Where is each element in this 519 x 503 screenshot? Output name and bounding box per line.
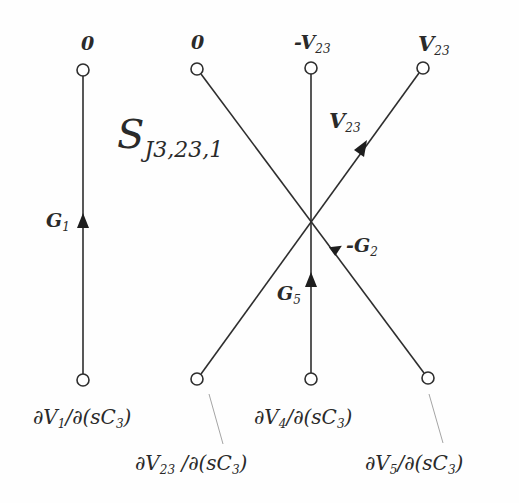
label-dv1: ∂V1/∂(sC3) <box>33 405 131 431</box>
node-bottom-dv4 <box>305 373 317 385</box>
arrow-neg-g2-icon <box>329 246 342 256</box>
label-top-0: 0 <box>191 31 204 53</box>
arrow-v23-icon <box>354 140 367 157</box>
label-left-top: 0 <box>81 32 94 54</box>
signal-flow-diagram: 0 0 -V23 V23 SJ3,23,1 V23 -G2 G5 G1 ∂V1/… <box>0 0 519 503</box>
node-top-0 <box>191 63 203 75</box>
gain-neg-g2: -G2 <box>346 234 378 259</box>
label-top-neg-v23: -V23 <box>294 31 331 56</box>
arrow-g5-icon <box>305 272 317 287</box>
title-s: SJ3,23,1 <box>117 111 223 162</box>
gain-g1: G1 <box>46 209 70 234</box>
gain-v23: V23 <box>329 108 361 135</box>
label-top-v23: V23 <box>418 31 450 58</box>
arrow-up-icon <box>77 213 89 228</box>
label-dv23: ∂V23 /∂(sC3) <box>135 451 247 477</box>
gain-g5: G5 <box>277 282 301 307</box>
label-dv4: ∂V4/∂(sC3) <box>254 405 352 431</box>
node-left-bottom <box>77 374 89 386</box>
node-bottom-dv5 <box>422 372 434 384</box>
node-left-top <box>77 64 89 76</box>
leader-dv5 <box>429 394 443 443</box>
diagram-svg: 0 0 -V23 V23 SJ3,23,1 V23 -G2 G5 G1 ∂V1/… <box>0 0 519 503</box>
label-dv5: ∂V5/∂(sC3) <box>365 451 463 477</box>
node-bottom-dv23 <box>191 373 203 385</box>
node-top-v23 <box>417 62 429 74</box>
node-top-neg-v23 <box>305 62 317 74</box>
leader-dv23 <box>209 394 223 444</box>
